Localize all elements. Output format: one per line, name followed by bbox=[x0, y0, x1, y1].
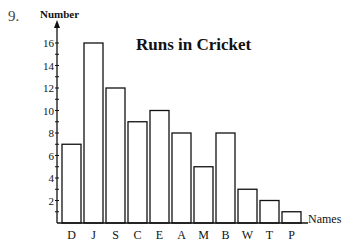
y-tick-label: 14 bbox=[43, 60, 55, 72]
bar-B bbox=[216, 133, 235, 223]
y-tick-label: 8 bbox=[49, 127, 55, 139]
bar-C bbox=[128, 122, 147, 223]
x-tick-label: W bbox=[242, 228, 254, 242]
bar-E bbox=[150, 111, 169, 224]
x-tick-label: M bbox=[198, 228, 209, 242]
x-axis-label: Names bbox=[308, 212, 341, 227]
bar-S bbox=[106, 88, 125, 223]
bar-A bbox=[172, 133, 191, 223]
bar-M bbox=[194, 167, 213, 223]
x-tick-label: A bbox=[177, 228, 186, 242]
bar-P bbox=[282, 212, 301, 223]
x-tick-label: B bbox=[221, 228, 229, 242]
y-tick-label: 6 bbox=[49, 150, 55, 162]
bar-J bbox=[84, 43, 103, 223]
y-tick-label: 4 bbox=[49, 172, 55, 184]
x-tick-label: S bbox=[112, 228, 119, 242]
bar-T bbox=[260, 201, 279, 224]
y-tick-label: 16 bbox=[43, 37, 55, 49]
bar-W bbox=[238, 189, 257, 223]
x-tick-label: J bbox=[91, 228, 96, 242]
x-tick-label: E bbox=[156, 228, 163, 242]
x-tick-label: C bbox=[133, 228, 141, 242]
y-tick-label: 2 bbox=[49, 195, 55, 207]
bar-chart: 246810121416DJSCEAMBWTP bbox=[0, 0, 356, 250]
x-tick-label: D bbox=[67, 228, 76, 242]
y-tick-label: 10 bbox=[43, 105, 55, 117]
bar-D bbox=[62, 144, 81, 223]
x-tick-label: P bbox=[288, 228, 295, 242]
x-tick-label: T bbox=[266, 228, 274, 242]
y-tick-label: 12 bbox=[43, 82, 54, 94]
